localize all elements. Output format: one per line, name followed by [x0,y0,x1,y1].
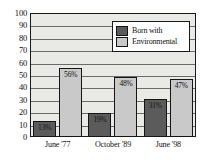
x-tick-label: June '98 [141,141,196,149]
legend-label: Environmental [132,38,177,46]
legend-label: Born with [132,27,162,35]
y-tick-label-60: 60 [0,58,27,67]
bar: 13% [33,121,56,137]
x-tick-label: October '89 [85,141,140,149]
bar: 47% [170,79,193,137]
y-tick-label-0: 0 [0,133,27,142]
bar-value-label: 13% [34,124,55,132]
y-tick-label-40: 40 [0,83,27,92]
legend-item: Born with [116,26,186,36]
bar: 31% [144,99,167,137]
y-axis: 1009080706050403020100 [0,13,27,137]
chart-legend: Born withEnvironmental [112,21,190,52]
y-tick-label-50: 50 [0,71,27,80]
bar-value-label: 48% [115,80,136,88]
y-tick-label-100: 100 [0,9,27,18]
y-tick-label-30: 30 [0,96,27,105]
legend-item: Environmental [116,37,186,47]
bar-value-label: 31% [145,102,166,110]
y-tick-label-80: 80 [0,34,27,43]
bar: 48% [114,77,137,137]
legend-swatch-icon [116,37,128,47]
y-tick-label-20: 20 [0,108,27,117]
legend-swatch-icon [116,26,128,36]
y-tick-label-10: 10 [0,120,27,129]
x-tick-label: June '77 [30,141,85,149]
bar-group: 13%56% [30,13,85,137]
y-tick-label-70: 70 [0,46,27,55]
bar-value-label: 19% [89,116,110,124]
bar-chart: 1009080706050403020100 13%56%19%48%31%47… [0,0,210,162]
bar-value-label: 47% [171,82,192,90]
bar-value-label: 56% [60,71,81,79]
bar: 19% [88,113,111,137]
bar: 56% [59,68,82,137]
y-tick-label-90: 90 [0,21,27,30]
x-axis: June '77October '89June '98 [30,139,196,155]
